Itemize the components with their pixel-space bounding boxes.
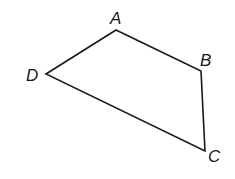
vertex-label-c: C (208, 147, 221, 166)
vertex-label-a: A (109, 9, 121, 28)
vertex-label-b: B (200, 51, 211, 70)
quadrilateral-ABCD (46, 30, 205, 151)
vertex-label-d: D (26, 66, 38, 85)
quadrilateral-diagram: A B C D (0, 0, 235, 179)
